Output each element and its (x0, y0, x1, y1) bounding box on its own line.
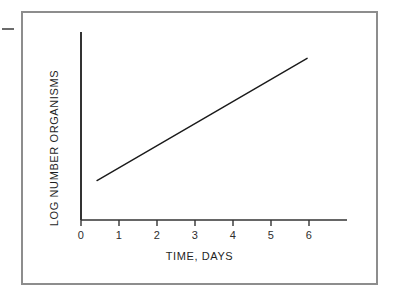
x-tick-label-6: 6 (299, 229, 319, 242)
chart-canvas (23, 13, 376, 283)
x-axis-title: TIME, DAYS (23, 250, 376, 262)
x-tick-label-3: 3 (185, 229, 205, 242)
plot-area: 0 1 2 3 4 5 6 TIME, DAYS LOG NUMBER ORGA… (23, 13, 376, 283)
figure-frame: 0 1 2 3 4 5 6 TIME, DAYS LOG NUMBER ORGA… (21, 11, 378, 285)
x-tick-label-1: 1 (109, 229, 129, 242)
y-axis-title-container: LOG NUMBER ORGANISMS (45, 13, 63, 283)
x-tick-label-4: 4 (223, 229, 243, 242)
x-tick-label-0: 0 (71, 229, 91, 242)
y-axis-title: LOG NUMBER ORGANISMS (48, 70, 60, 226)
x-axis-ticks (81, 220, 309, 226)
data-line-exponential-growth (97, 58, 307, 180)
left-edge-dash-mark (2, 28, 14, 30)
x-tick-label-2: 2 (147, 229, 167, 242)
x-tick-label-5: 5 (261, 229, 281, 242)
